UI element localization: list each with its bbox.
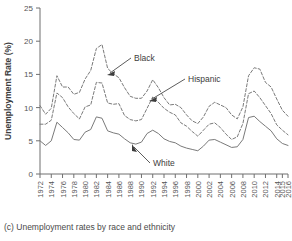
series-group [40, 45, 288, 151]
y-tick-label: 20 [24, 37, 33, 46]
series-line-hispanic [40, 82, 288, 139]
y-tick-label: 25 [24, 4, 33, 13]
x-tick-label: 1994 [160, 181, 169, 198]
y-tick-label: 5 [29, 137, 34, 146]
y-tick-label: 0 [29, 170, 34, 179]
annotation-white: White [132, 144, 175, 168]
unemployment-line-chart: 0510152025 19721974197619781980198219841… [0, 0, 292, 205]
x-tick-label: 1972 [36, 181, 45, 198]
y-tick-group: 0510152025 [24, 4, 40, 179]
x-tick-label: 1998 [183, 181, 192, 198]
x-tick-label: 2004 [216, 181, 225, 198]
x-tick-label: 1990 [137, 181, 146, 198]
x-tick-label: 2006 [228, 181, 237, 198]
y-tick-label: 10 [24, 104, 33, 113]
black-label: Black [134, 53, 156, 63]
white-label: White [153, 158, 175, 168]
x-tick-label: 1992 [149, 181, 158, 198]
figure-caption: (c) Unemployment rates by race and ethni… [4, 222, 175, 232]
annotation-hispanic: Hispanic [149, 74, 221, 102]
black-leader-line [110, 58, 131, 73]
x-tick-label: 1986 [115, 181, 124, 198]
series-line-white [40, 116, 288, 151]
hispanic-leader-line [152, 79, 185, 99]
x-tick-label: 2008 [239, 181, 248, 198]
white-leader-line [134, 147, 150, 163]
x-tick-label: 2002 [205, 181, 214, 198]
hispanic-label: Hispanic [188, 74, 221, 84]
annotation-black: Black [107, 53, 156, 76]
x-tick-label: 1980 [81, 181, 90, 198]
x-tick-group: 1972197419761978198019821984198619881990… [36, 174, 292, 198]
x-tick-label: 1978 [70, 181, 79, 198]
x-tick-label: 1996 [171, 181, 180, 198]
figure: 0510152025 19721974197619781980198219841… [0, 0, 292, 241]
x-tick-label: 1984 [104, 181, 113, 198]
x-tick-label: 1976 [59, 181, 68, 198]
series-line-black [40, 45, 288, 124]
y-axis-title: Unemployment Rate (%) [3, 42, 13, 140]
axes [40, 8, 288, 174]
x-tick-label: 1982 [92, 181, 101, 198]
y-tick-label: 15 [24, 70, 33, 79]
x-tick-label: 2016 [284, 181, 292, 198]
x-tick-label: 2000 [194, 181, 203, 198]
x-tick-label: 1974 [47, 181, 56, 198]
chart-plot-area: 0510152025 19721974197619781980198219841… [0, 0, 292, 205]
x-tick-label: 2010 [250, 181, 259, 198]
x-tick-label: 1988 [126, 181, 135, 198]
white-arrow-head [132, 144, 137, 152]
x-tick-label: 2012 [261, 181, 270, 198]
